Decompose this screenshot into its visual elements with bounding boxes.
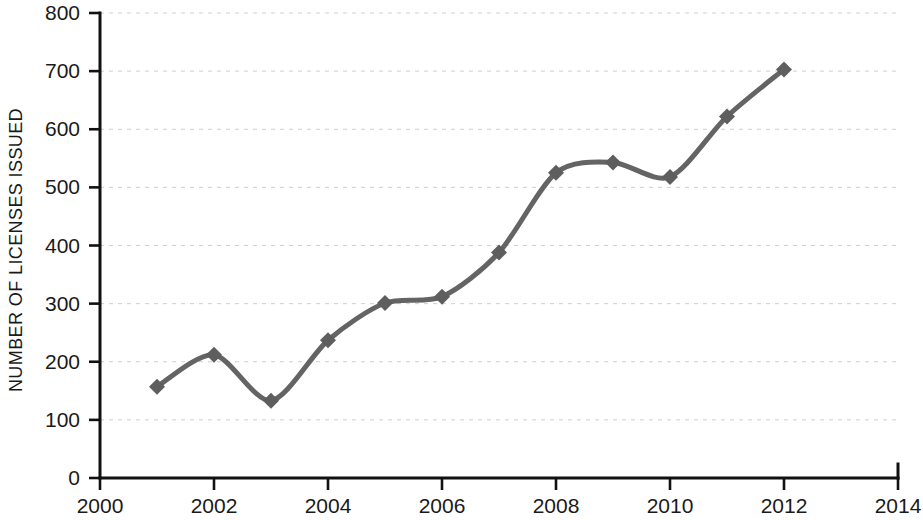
- x-axis-tick-label: 2012: [761, 494, 808, 517]
- y-axis-tick-label: 500: [45, 175, 80, 198]
- x-axis-tick-label: 2006: [419, 494, 466, 517]
- x-axis-tick-label: 2008: [533, 494, 580, 517]
- y-axis-tick-label: 400: [45, 234, 80, 257]
- chart-canvas: 0100200300400500600700800 20002002200420…: [0, 0, 923, 520]
- line-chart: 0100200300400500600700800 20002002200420…: [0, 0, 923, 520]
- x-axis-tick-label: 2000: [77, 494, 124, 517]
- y-axis-tick-label: 800: [45, 1, 80, 24]
- y-axis-tick-labels: 0100200300400500600700800: [45, 1, 80, 489]
- x-axis-tick-label: 2014: [875, 494, 922, 517]
- y-axis-title: NUMBER OF LICENSES ISSUED: [6, 108, 26, 392]
- series-line: [157, 69, 784, 400]
- y-axis-tick-label: 600: [45, 117, 80, 140]
- data-point-marker: [377, 295, 393, 311]
- y-axis-ticks: [89, 13, 100, 478]
- data-point-marker: [263, 393, 279, 409]
- series-markers: [149, 61, 792, 408]
- x-axis-tick-label: 2004: [305, 494, 352, 517]
- y-axis-tick-label: 200: [45, 350, 80, 373]
- x-axis-tick-labels: 20002002200420062008201020122014: [77, 494, 922, 517]
- x-axis-ticks: [100, 478, 898, 490]
- y-axis-tick-label: 100: [45, 408, 80, 431]
- data-point-marker: [605, 154, 621, 170]
- y-axis-tick-label: 700: [45, 59, 80, 82]
- x-axis-tick-label: 2010: [647, 494, 694, 517]
- data-point-marker: [206, 347, 222, 363]
- y-axis-tick-label: 300: [45, 292, 80, 315]
- x-axis-tick-label: 2002: [191, 494, 238, 517]
- y-axis-tick-label: 0: [68, 466, 80, 489]
- data-series: [149, 61, 792, 408]
